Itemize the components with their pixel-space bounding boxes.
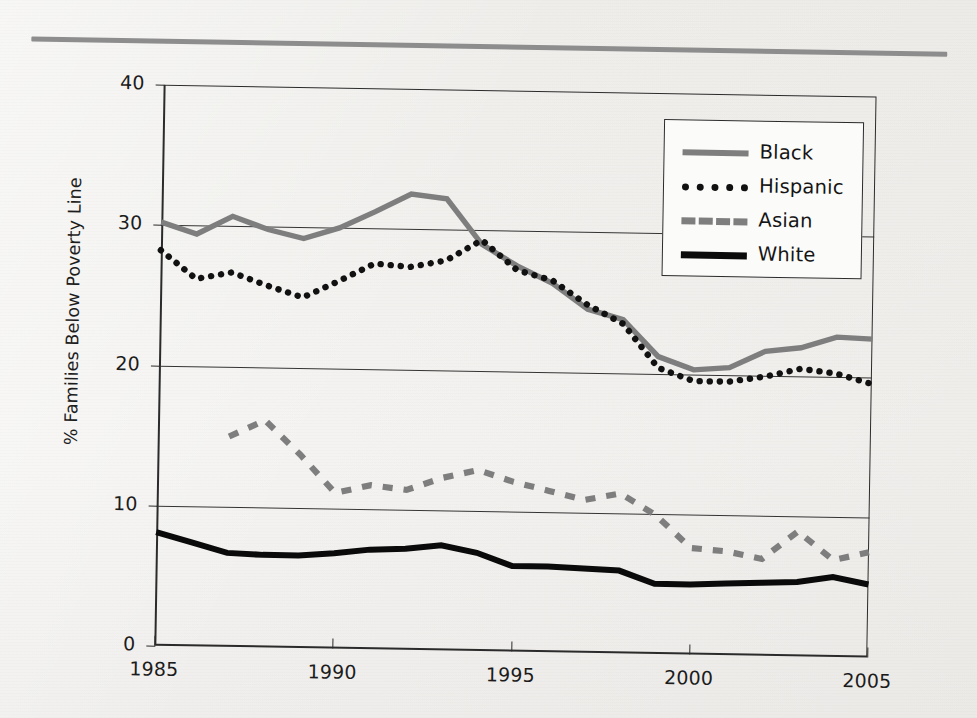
legend-item-black: Black: [664, 133, 863, 170]
line-swatch-dotted-black-icon: [682, 183, 748, 191]
x-tick-label: 2005: [824, 669, 910, 692]
legend-item-asian: Asian: [663, 201, 862, 238]
x-tick-label: 1985: [111, 657, 197, 680]
chart-legend: Black Hispanic Asian White: [662, 119, 865, 279]
x-tick-1990: [333, 639, 334, 649]
y-tick-30: [153, 225, 162, 226]
x-tick-1985: [154, 636, 155, 646]
x-tick-label: 2000: [645, 666, 731, 689]
legend-label: White: [758, 242, 816, 266]
scan-skew-wrapper: 010203040 19851990199520002005 % Familie…: [0, 0, 977, 718]
legend-label: Asian: [758, 208, 813, 232]
x-tick-1995: [511, 642, 512, 652]
legend-item-white: White: [663, 235, 862, 272]
poverty-line-chart: 010203040 19851990199520002005 % Familie…: [0, 0, 977, 718]
y-tick-label: 20: [80, 351, 140, 374]
y-tick-label-wrap: 0: [76, 631, 136, 632]
y-tick-20: [151, 365, 160, 366]
line-swatch-solid-black-icon: [681, 251, 747, 259]
y-tick-40: [156, 85, 165, 86]
x-tick-2005: [867, 647, 868, 657]
y-tick-label-wrap: 20: [80, 351, 140, 352]
y-tick-label: 10: [78, 491, 138, 514]
y-tick-label: 40: [84, 70, 144, 93]
legend-label: Black: [759, 140, 813, 164]
y-tick-0: [146, 646, 155, 647]
line-swatch-solid-gray-icon: [683, 149, 749, 156]
legend-item-hispanic: Hispanic: [664, 167, 863, 204]
line-swatch-dashed-gray-icon: [681, 217, 747, 225]
y-tick-label: 30: [82, 211, 142, 234]
x-tick-label: 1995: [467, 663, 553, 686]
y-tick-10: [149, 505, 158, 506]
legend-label: Hispanic: [759, 174, 844, 198]
x-tick-2000: [689, 645, 690, 655]
y-tick-label-wrap: 40: [85, 70, 145, 71]
y-tick-label-wrap: 10: [78, 491, 138, 492]
y-axis-title: % Families Below Poverty Line: [60, 161, 85, 461]
x-tick-label: 1990: [289, 660, 375, 683]
y-tick-label: 0: [75, 631, 135, 654]
y-tick-label-wrap: 30: [83, 211, 143, 212]
